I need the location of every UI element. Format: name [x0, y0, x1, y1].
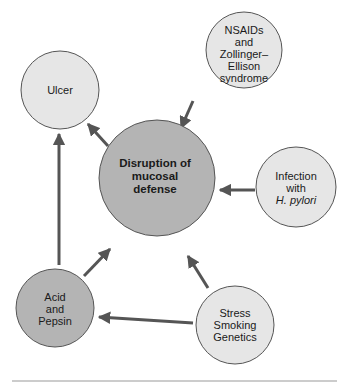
node-infection-line-2: with [285, 182, 306, 194]
mucosal-defense-diagram: Ulcer NSAIDs and Zollinger– Ellison synd… [0, 0, 351, 384]
node-acid-line-3: Pepsin [38, 315, 72, 327]
node-nsaids-line-2: and [235, 36, 253, 48]
node-infection-line-3: H. pylori [276, 194, 317, 206]
node-nsaids-line-4: Ellison [228, 60, 260, 72]
arrow-center-to-ulcer [88, 124, 108, 146]
node-nsaids-line-1: NSAIDs [224, 24, 264, 36]
arrow-acid-to-center [84, 249, 110, 276]
node-stress-line-3: Genetics [213, 331, 257, 343]
node-center-line-1: Disruption of [119, 157, 191, 169]
node-acid-line-2: and [46, 303, 64, 315]
arrow-stress-to-center [188, 256, 208, 288]
arrow-stress-to-acid [99, 317, 193, 323]
node-nsaids-line-5: syndrome [220, 72, 268, 84]
node-center-line-2: mucosal [132, 170, 179, 182]
node-center-line-3: defense [133, 183, 176, 195]
arrow-nsaids-to-center [181, 101, 193, 128]
node-infection: Infection with H. pylori [256, 147, 336, 227]
node-stress: Stress Smoking Genetics [196, 286, 274, 364]
node-ulcer: Ulcer [21, 51, 99, 129]
node-acid-line-1: Acid [44, 291, 65, 303]
node-ulcer-label: Ulcer [47, 84, 73, 96]
node-stress-line-2: Smoking [214, 319, 257, 331]
node-acid: Acid and Pepsin [16, 269, 94, 347]
node-nsaids: NSAIDs and Zollinger– Ellison syndrome [206, 12, 282, 88]
node-center: Disruption of mucosal defense [99, 120, 215, 236]
node-infection-line-1: Infection [275, 170, 317, 182]
node-stress-line-1: Stress [219, 307, 251, 319]
node-nsaids-line-3: Zollinger– [220, 48, 269, 60]
